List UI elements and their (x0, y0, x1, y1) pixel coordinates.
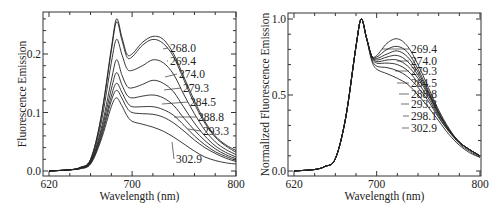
series-label: 268.0 (170, 42, 196, 54)
series-line-293-3 (294, 19, 480, 171)
x-tick-label: 620 (40, 178, 58, 190)
x-tick-label: 620 (285, 178, 303, 190)
series-group: 269.4274.0279.3284.5288.8293.3298.1302.9 (294, 19, 480, 171)
x-tick-label: 800 (227, 178, 245, 190)
series-line-298-1 (294, 19, 480, 171)
series-label: 293.3 (203, 125, 229, 137)
series-line-288-8 (294, 19, 480, 171)
series-line-284-5 (294, 19, 480, 171)
x-tick-label: 700 (123, 178, 141, 190)
x-axis-label: Wavelength (nm) (100, 190, 180, 203)
y-tick-label: 1.0 (272, 13, 287, 25)
x-axis-label: Wavelength (nm) (345, 190, 425, 203)
series-label: 269.4 (411, 43, 437, 55)
y-tick-label: 0.0 (272, 165, 287, 177)
series-line-269-4 (294, 19, 480, 171)
series-label: 288.8 (198, 111, 224, 123)
x-tick-label: 700 (368, 178, 386, 190)
left-chart: 6207008000.00.10.2Wavelength (nm)Fluores… (0, 0, 247, 206)
series-group: 268.0269.4274.0279.3284.5288.8293.3302.9 (49, 19, 236, 171)
right-chart: 6207008000.00.51.0Wavelength (nm)Normali… (247, 0, 493, 206)
series-label: 279.3 (183, 82, 209, 94)
series-label: 302.9 (176, 153, 202, 165)
y-tick-label: 0.1 (27, 107, 42, 119)
series-line-268-0 (49, 19, 236, 171)
y-axis-label: Fluorescence Emission (16, 41, 28, 148)
series-label: 284.5 (190, 96, 216, 108)
y-tick-label: 0.0 (27, 165, 42, 177)
x-tick-label: 800 (471, 178, 489, 190)
series-label: 298.1 (411, 110, 437, 122)
series-line-302-9 (294, 19, 480, 171)
series-label: 269.4 (170, 55, 196, 67)
series-line-279-3 (294, 19, 480, 171)
y-tick-label: 0.5 (272, 89, 287, 101)
series-label: 274.0 (179, 68, 205, 80)
plot-frame (288, 13, 481, 176)
series-label: 302.9 (411, 122, 437, 134)
series-line-274-0 (294, 19, 480, 171)
y-tick-label: 0.2 (27, 48, 42, 60)
plot-frame (43, 12, 236, 176)
y-axis-label: Normalized Fluorescence Emission (259, 12, 271, 176)
